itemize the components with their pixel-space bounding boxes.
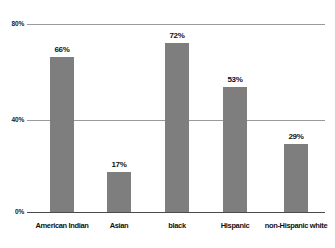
bar-value-label: 66% [54,46,69,54]
x-label-american-indian: American Indian [35,222,88,230]
bar-value-label: 17% [111,161,126,169]
x-label-asian: Asian [110,222,129,230]
bar [284,144,308,212]
bar-group-black: 72% [148,0,206,212]
x-label-black: black [168,222,185,230]
x-label-hispanic: Hispanic [221,222,249,230]
bar-group-hispanic: 53% [206,0,264,212]
x-label-non-hispanic-white: non-Hispanic white [265,222,327,230]
x-axis-labels: American Indian Asian black Hispanic non… [0,222,335,242]
bar-group-american-indian: 66% [33,0,91,212]
bar-value-label: 53% [227,76,242,84]
bar-series: 66% 17% 72% 53% 29% [0,0,335,212]
bar-group-non-hispanic-white: 29% [267,0,325,212]
bar [165,43,189,212]
bar [223,87,247,212]
bar [50,57,74,212]
bar [107,172,131,212]
axis-baseline [27,212,325,213]
bar-chart: 80% 40% 0% 66% 17% 72% 53% 29% American … [0,0,335,248]
bar-group-asian: 17% [90,0,148,212]
bar-value-label: 29% [288,133,303,141]
bar-value-label: 72% [169,32,184,40]
